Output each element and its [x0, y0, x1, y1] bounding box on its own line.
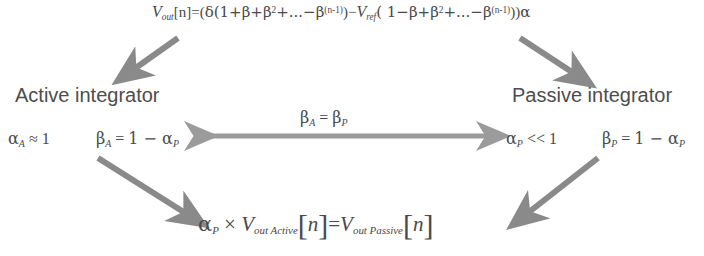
bottom-equals-sign: = — [328, 212, 340, 236]
beta-equality-label: βA = βP — [300, 110, 348, 128]
sample-index-right: n — [413, 212, 424, 236]
alpha-symbol: α — [520, 3, 530, 21]
sample-index: [n] — [174, 4, 192, 20]
arrow-passive-to-bottom — [524, 158, 598, 216]
beta-passive-operator: = — [621, 130, 630, 147]
alpha-passive-param: αP << 1 — [506, 131, 557, 149]
beta-passive-symbol: β — [602, 129, 611, 148]
diagram-canvas: Vout[n]=(δ(1+β+β2+...−β(n-1))−Vref( 1−β+… — [0, 0, 704, 256]
alpha-passive-subscript: P — [517, 138, 523, 149]
active-passive-relation-equation: αP × Vout Active[n]=Vout Passive[n] — [198, 210, 433, 240]
v-out-active-symbol: V — [241, 212, 254, 236]
series-a-close: )− — [343, 4, 356, 20]
series-b-head: ( 1−β+β — [376, 3, 439, 21]
alpha-active-subscript: A — [19, 138, 25, 149]
series-a-head: (1+β+β — [214, 3, 272, 21]
beta-relation-left-subscript: A — [309, 117, 315, 128]
arrow-top-to-active — [130, 38, 178, 72]
series-a-exponent-n: (n-1) — [324, 5, 343, 15]
v-out-active-subscript: out Active — [254, 224, 298, 236]
alpha-passive-symbol: α — [506, 129, 517, 148]
v-out-passive-subscript: out Passive — [353, 224, 403, 236]
beta-passive-value: 1 − α — [634, 129, 679, 148]
bracket-open-right: [ — [403, 208, 413, 241]
v-out-passive-symbol: V — [340, 212, 353, 236]
beta-active-value-subscript: P — [173, 138, 179, 149]
beta-active-param: βA = 1 − αP — [96, 131, 179, 149]
sample-index-left: n — [308, 212, 319, 236]
alpha-passive-value: 1 — [549, 130, 557, 147]
arrow-active-to-bottom — [98, 158, 190, 216]
beta-active-subscript: A — [105, 138, 111, 149]
v-out-symbol: V — [152, 3, 162, 20]
arrow-top-to-passive — [520, 38, 578, 76]
beta-active-value: 1 − α — [128, 129, 173, 148]
v-ref-symbol: V — [356, 3, 366, 20]
beta-relation-left-symbol: β — [300, 108, 309, 127]
alpha-active-operator: ≈ — [29, 130, 38, 147]
beta-relation-right-symbol: β — [332, 108, 341, 127]
series-a-tail: +...−β — [276, 3, 324, 21]
beta-active-symbol: β — [96, 129, 105, 148]
beta-passive-value-subscript: P — [679, 138, 685, 149]
bottom-alpha-subscript: P — [212, 224, 219, 236]
beta-passive-subscript: P — [611, 138, 617, 149]
series-b-exponent-n: (n-1) — [492, 5, 511, 15]
v-ref-subscript: ref — [366, 12, 376, 22]
multiplication-sign: × — [224, 212, 236, 236]
beta-active-operator: = — [115, 130, 124, 147]
output-voltage-equation: Vout[n]=(δ(1+β+β2+...−β(n-1))−Vref( 1−β+… — [152, 4, 530, 22]
alpha-passive-operator: << — [527, 130, 545, 147]
series-b-tail: +...−β — [443, 3, 491, 21]
passive-integrator-heading: Passive integrator — [512, 84, 672, 107]
bracket-close-right: ] — [423, 208, 433, 241]
beta-passive-param: βP = 1 − αP — [602, 131, 685, 149]
series-b-close: )) — [510, 4, 520, 20]
active-integrator-heading: Active integrator — [15, 84, 160, 107]
beta-relation-right-subscript: P — [342, 117, 348, 128]
v-out-subscript: out — [162, 12, 174, 22]
bracket-open-left: [ — [298, 208, 308, 241]
bracket-close-left: ] — [318, 208, 328, 241]
bottom-alpha-symbol: α — [198, 212, 212, 236]
equals-open-paren: =( — [191, 4, 204, 20]
alpha-active-symbol: α — [8, 129, 19, 148]
delta-symbol: δ — [205, 3, 214, 21]
alpha-active-value: 1 — [42, 130, 50, 147]
beta-relation-operator: = — [319, 109, 328, 126]
alpha-active-param: αA ≈ 1 — [8, 131, 50, 149]
